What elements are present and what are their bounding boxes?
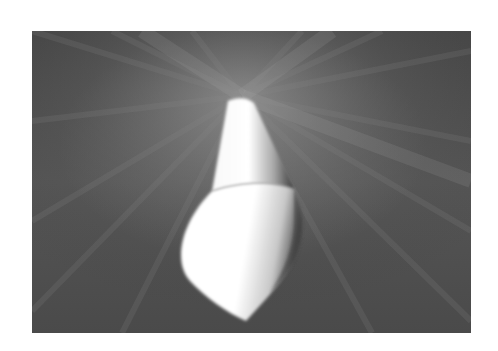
photo [32,31,471,333]
spindle-object [32,31,471,333]
